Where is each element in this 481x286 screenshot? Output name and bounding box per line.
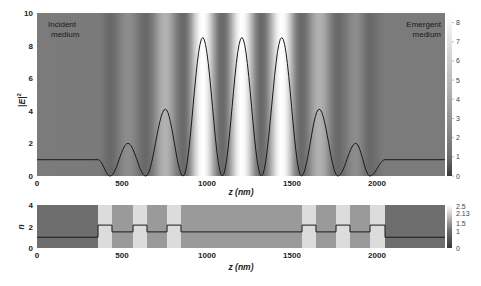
top-colorbar-tick: 6: [456, 57, 460, 64]
bottom-colorbar: [447, 205, 452, 248]
bottom-panel: 024 0500100015002000 z (nm) n 011.52.132…: [16, 201, 470, 272]
top-colorbar-ticks: 012345678: [452, 19, 460, 179]
layer: [147, 205, 167, 248]
bottom-y-tick: 4: [29, 201, 34, 210]
top-y-tick: 4: [29, 107, 34, 116]
top-y-axis-label: |E|2: [16, 92, 27, 106]
layer: [302, 205, 316, 248]
chart-figure: 0246810 0500100015002000 z (nm) |E|2 Inc…: [0, 0, 481, 286]
top-colorbar-tick: 3: [456, 115, 460, 122]
bottom-x-tick: 0: [35, 251, 40, 260]
top-x-axis-label: z (nm): [227, 187, 253, 197]
layer: [98, 205, 112, 248]
top-x-tick: 1000: [198, 179, 216, 188]
bottom-x-axis-label: z (nm): [227, 262, 253, 272]
top-y-tick: 0: [29, 172, 34, 181]
bottom-y-axis: 024: [29, 201, 34, 253]
top-colorbar-tick: 4: [456, 96, 460, 103]
layer: [133, 205, 147, 248]
bottom-colorbar-tick: 2.13: [456, 210, 470, 217]
top-colorbar-tick: 7: [456, 38, 460, 45]
top-y-tick: 10: [24, 9, 33, 18]
bottom-colorbar-tick: 2.5: [456, 203, 466, 210]
bottom-colorbar-tick: 0: [456, 245, 460, 252]
top-y-tick: 8: [29, 42, 34, 51]
layer: [385, 205, 445, 248]
layer: [181, 205, 302, 248]
field-intensity-map: [37, 13, 445, 176]
bottom-x-tick: 2000: [368, 251, 386, 260]
top-colorbar-tick: 8: [456, 19, 460, 26]
bottom-colorbar-ticks: 011.52.132.5: [456, 203, 470, 252]
top-x-axis: 0500100015002000: [35, 179, 387, 188]
layer: [316, 205, 336, 248]
top-y-tick: 6: [29, 74, 34, 83]
top-colorbar-tick: 1: [456, 153, 460, 160]
bottom-x-tick: 1000: [198, 251, 216, 260]
top-y-axis: 0246810: [24, 9, 33, 181]
top-colorbar-tick: 5: [456, 77, 460, 84]
bottom-x-tick: 500: [115, 251, 129, 260]
incident-medium-label: Incident: [48, 20, 77, 29]
bottom-colorbar-tick: 1: [456, 228, 460, 235]
bottom-colorbar-tick: 1.5: [456, 220, 466, 227]
top-x-tick: 2000: [368, 179, 386, 188]
layer: [370, 205, 385, 248]
top-panel: 0246810 0500100015002000 z (nm) |E|2 Inc…: [16, 9, 460, 197]
top-colorbar: [447, 13, 452, 176]
top-colorbar-tick: 0: [456, 173, 460, 180]
top-x-tick: 500: [115, 179, 129, 188]
layer: [167, 205, 181, 248]
top-colorbar-tick: 2: [456, 134, 460, 141]
top-x-tick: 1500: [283, 179, 301, 188]
incident-medium-label-2: medium: [51, 30, 80, 39]
bottom-y-tick: 0: [29, 244, 34, 253]
bottom-y-tick: 2: [29, 223, 34, 232]
bottom-x-tick: 1500: [283, 251, 301, 260]
layer: [37, 205, 98, 248]
bottom-x-axis: 0500100015002000: [35, 251, 387, 260]
top-x-tick: 0: [35, 179, 40, 188]
emergent-medium-label: Emergent: [406, 20, 441, 29]
layer: [112, 205, 133, 248]
layer: [350, 205, 370, 248]
top-y-tick: 2: [29, 139, 34, 148]
emergent-medium-label-2: medium: [413, 30, 442, 39]
layer: [336, 205, 350, 248]
bottom-y-axis-label: n: [16, 224, 26, 229]
